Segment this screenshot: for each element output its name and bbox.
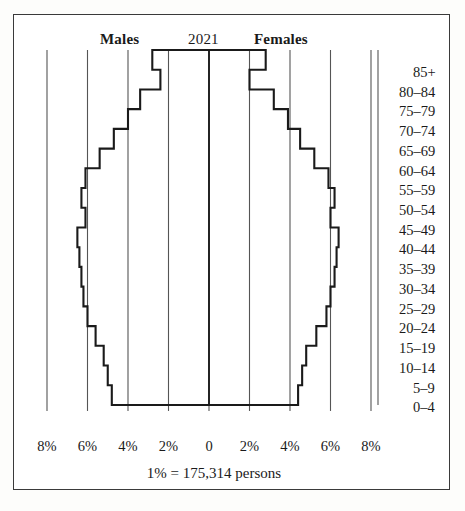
- age-band-label: 80–84: [385, 83, 455, 103]
- age-band-label: 85+: [385, 63, 455, 83]
- age-band-label: 25–29: [385, 300, 455, 320]
- males-bar-outline: [77, 50, 209, 405]
- x-axis-tick-label: 4%: [280, 438, 299, 455]
- x-axis-tick-label: 4%: [118, 438, 137, 455]
- age-band-label: 45–49: [385, 221, 455, 241]
- age-band-label: 65–69: [385, 142, 455, 162]
- x-axis-tick-label: 2%: [240, 438, 259, 455]
- x-axis-tick-label: 0: [205, 438, 212, 455]
- females-bar-outline: [209, 50, 339, 405]
- age-band-label: 35–39: [385, 260, 455, 280]
- age-band-label: 75–79: [385, 102, 455, 122]
- age-band-label-column: 85+80–8475–7970–7465–6960–6455–5950–5445…: [385, 63, 455, 418]
- population-pyramid-figure: Males 2021 Females 85+80–8475–7970–7465–…: [0, 0, 465, 511]
- x-axis-tick-labels: 8%6%4%2%02%4%6%8%: [14, 438, 451, 460]
- age-band-label: 15–19: [385, 339, 455, 359]
- age-band-label: 5–9: [385, 379, 455, 399]
- x-axis-tick-label: 8%: [361, 438, 380, 455]
- age-band-label: 30–34: [385, 280, 455, 300]
- age-band-label: 70–74: [385, 122, 455, 142]
- age-band-label: 10–14: [385, 359, 455, 379]
- x-axis-tick-label: 6%: [78, 438, 97, 455]
- x-axis-tick-label: 2%: [159, 438, 178, 455]
- age-band-label: 20–24: [385, 319, 455, 339]
- age-band-label: 0–4: [385, 398, 455, 418]
- age-band-label: 40–44: [385, 240, 455, 260]
- age-band-label: 55–59: [385, 181, 455, 201]
- age-band-label: 50–54: [385, 201, 455, 221]
- x-axis-tick-label: 6%: [321, 438, 340, 455]
- figure-frame: Males 2021 Females 85+80–8475–7970–7465–…: [13, 14, 450, 490]
- scale-caption: 1% = 175,314 persons: [14, 465, 414, 482]
- x-axis-tick-label: 8%: [37, 438, 56, 455]
- age-band-label: 60–64: [385, 162, 455, 182]
